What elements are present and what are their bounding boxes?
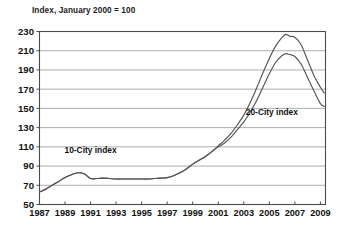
x-axis-tick-label: 2007 xyxy=(285,208,305,218)
x-axis-tick-label: 1995 xyxy=(131,208,151,218)
y-axis-tick-label: 190 xyxy=(18,64,34,75)
plot-frame xyxy=(40,32,326,205)
x-axis-tick-label: 1991 xyxy=(80,208,100,218)
chart-container: Index, January 2000 = 100 23021019017015… xyxy=(0,0,349,231)
x-axis-tick-label: 2003 xyxy=(234,208,254,218)
x-axis-tick-label: 1989 xyxy=(55,208,75,218)
y-axis-tick-label: 150 xyxy=(18,103,34,114)
x-axis-tick-label: 1997 xyxy=(157,208,177,218)
series-annotation-1: 10-City index xyxy=(65,145,117,155)
line-chart-plot: 2302101901701501301109070501987198919911… xyxy=(0,0,349,231)
x-axis-tick-label: 1999 xyxy=(182,208,202,218)
y-axis-tick-label: 170 xyxy=(18,84,34,95)
x-axis-tick-label: 1987 xyxy=(29,208,49,218)
y-axis-tick-label: 110 xyxy=(19,141,34,152)
y-axis-tick-label: 90 xyxy=(23,160,34,171)
x-axis-tick-label: 2005 xyxy=(259,208,279,218)
x-axis-tick-label: 1993 xyxy=(106,208,126,218)
y-axis-tick-label: 230 xyxy=(18,26,34,37)
series-annotation-2: 20-City index xyxy=(246,107,298,117)
x-axis-tick-label: 2009 xyxy=(310,208,330,218)
y-axis-tick-label: 210 xyxy=(18,45,34,56)
x-axis-tick-label: 2001 xyxy=(208,208,228,218)
y-axis-tick-label: 130 xyxy=(18,122,34,133)
y-axis-tick-label: 70 xyxy=(23,180,34,191)
